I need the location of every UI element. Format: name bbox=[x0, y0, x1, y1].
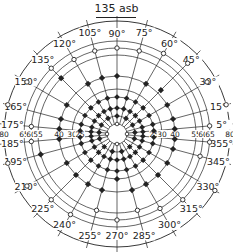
angle-label-315: 315° bbox=[180, 203, 203, 214]
filled-marker-inner bbox=[99, 122, 105, 128]
filled-marker-inner bbox=[82, 113, 88, 119]
open-marker bbox=[93, 49, 97, 53]
filled-marker bbox=[64, 102, 70, 108]
open-marker bbox=[72, 57, 76, 61]
filled-marker-inner bbox=[97, 136, 103, 142]
filled-marker-inner bbox=[105, 116, 111, 122]
filled-marker-inner bbox=[107, 156, 113, 162]
open-marker bbox=[29, 139, 33, 143]
open-marker bbox=[115, 46, 119, 50]
open-marker bbox=[115, 218, 119, 222]
filled-marker-inner bbox=[130, 122, 136, 128]
open-marker bbox=[205, 80, 209, 84]
ring-inner-9 bbox=[107, 124, 127, 144]
angle-label-135: 135° bbox=[31, 54, 54, 65]
filled-marker-inner bbox=[137, 118, 143, 124]
radial-label-right-30: 30 bbox=[157, 130, 167, 139]
open-marker bbox=[158, 206, 162, 210]
filled-marker-inner bbox=[114, 157, 120, 163]
filled-marker-inner bbox=[124, 167, 130, 173]
filled-marker bbox=[38, 151, 44, 157]
filled-marker bbox=[129, 187, 135, 193]
open-marker bbox=[29, 124, 33, 128]
filled-marker-inner bbox=[101, 154, 107, 160]
filled-marker-inner bbox=[96, 99, 102, 105]
open-marker bbox=[181, 198, 185, 202]
open-marker bbox=[213, 188, 217, 192]
filled-marker-inner bbox=[124, 95, 130, 101]
filled-marker-inner bbox=[132, 130, 138, 136]
open-marker bbox=[207, 140, 211, 144]
filled-marker-inner bbox=[133, 99, 139, 105]
filled-marker-inner bbox=[133, 163, 139, 169]
open-marker bbox=[186, 61, 190, 65]
filled-marker-inner bbox=[78, 141, 84, 147]
filled-marker-inner bbox=[127, 109, 133, 115]
radial-label-left-80: 80 bbox=[0, 130, 9, 139]
filled-marker bbox=[164, 160, 170, 166]
angle-label-105: 105° bbox=[78, 27, 101, 38]
angle-label-255: 255° bbox=[78, 230, 101, 241]
angle-label-175: 175° bbox=[1, 119, 24, 130]
radial-label-left-55: 55 bbox=[33, 130, 43, 139]
filled-marker-inner bbox=[107, 106, 113, 112]
filled-marker bbox=[164, 102, 170, 108]
filled-marker bbox=[143, 181, 149, 187]
filled-marker bbox=[99, 187, 105, 193]
open-marker bbox=[207, 124, 211, 128]
angle-label-240: 240° bbox=[53, 219, 76, 230]
filled-marker bbox=[85, 81, 91, 87]
center-open-marker bbox=[115, 142, 119, 146]
polar-chart: 135 asb 90°75°60°45°30°15°5°355°345°330°… bbox=[0, 0, 233, 252]
filled-marker-inner bbox=[82, 150, 88, 156]
open-marker bbox=[6, 161, 10, 165]
open-marker bbox=[25, 184, 29, 188]
angle-label-185: 185° bbox=[1, 138, 24, 149]
filled-marker-inner bbox=[114, 113, 120, 119]
angle-label-345: 345° bbox=[207, 156, 230, 167]
filled-marker-inner bbox=[127, 154, 133, 160]
filled-marker-inner bbox=[105, 95, 111, 101]
angle-label-225: 225° bbox=[31, 203, 54, 214]
filled-marker-inner bbox=[105, 167, 111, 173]
filled-marker-inner bbox=[114, 168, 120, 174]
filled-marker-inner bbox=[121, 106, 127, 112]
filled-marker-inner bbox=[92, 118, 98, 124]
filled-marker-inner bbox=[89, 124, 95, 130]
open-marker bbox=[198, 154, 202, 158]
center-open-marker bbox=[125, 132, 129, 136]
filled-marker-inner bbox=[96, 163, 102, 169]
angle-label-60: 60° bbox=[161, 38, 178, 49]
filled-marker-inner bbox=[150, 122, 156, 128]
angle-label-75: 75° bbox=[136, 27, 153, 38]
filled-marker-inner bbox=[92, 144, 98, 150]
polar-grid: 90°75°60°45°30°15°5°355°345°330°315°300°… bbox=[0, 0, 233, 252]
open-marker bbox=[25, 80, 29, 84]
filled-marker-inner bbox=[119, 149, 125, 155]
center-open-marker bbox=[105, 132, 109, 136]
filled-marker-inner bbox=[96, 130, 102, 136]
radial-label-right-65: 65 bbox=[205, 130, 215, 139]
open-marker bbox=[224, 103, 228, 107]
angle-label-5: 5° bbox=[216, 119, 227, 130]
angle-label-90: 90° bbox=[109, 28, 126, 39]
filled-marker bbox=[64, 160, 70, 166]
open-marker bbox=[49, 66, 53, 70]
open-marker bbox=[49, 198, 53, 202]
filled-marker bbox=[170, 146, 176, 152]
radial-label-right-80: 80 bbox=[225, 130, 233, 139]
filled-marker bbox=[58, 116, 64, 122]
filled-marker bbox=[114, 73, 120, 79]
angle-label-300: 300° bbox=[158, 219, 181, 230]
filled-marker-inner bbox=[88, 129, 94, 135]
filled-marker-inner bbox=[78, 122, 84, 128]
filled-marker-inner bbox=[121, 156, 127, 162]
angle-label-285: 285° bbox=[133, 230, 156, 241]
filled-marker bbox=[143, 81, 149, 87]
filled-marker bbox=[99, 75, 105, 81]
filled-marker bbox=[170, 116, 176, 122]
filled-marker-inner bbox=[101, 109, 107, 115]
angle-label-355: 355° bbox=[210, 138, 233, 149]
open-marker bbox=[161, 51, 165, 55]
filled-marker-inner bbox=[139, 124, 145, 130]
